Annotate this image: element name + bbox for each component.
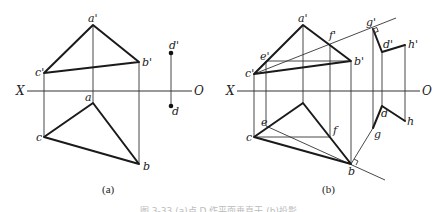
label-f-b: f — [332, 124, 339, 137]
label-b-b: b — [348, 165, 355, 178]
label-c-a: c — [36, 131, 42, 144]
axis-label-o-a: O — [194, 84, 204, 98]
line-b-g — [351, 128, 373, 164]
panel-b: X O a' b' c' e — [225, 12, 432, 196]
projection-diagram: X O a' b' c' d' a b c d (a) X O — [0, 0, 440, 212]
figure-caption: 图 3-33 (a)点 D 作平面垂直于 (b)投影 — [140, 205, 297, 212]
label-c-prime-a: c' — [35, 66, 44, 79]
label-g-prime-b: g' — [366, 16, 376, 29]
label-a-a: a — [85, 91, 92, 104]
label-f-prime-b: f' — [328, 29, 336, 42]
label-g-b: g — [374, 128, 381, 141]
triangle-front-view-a — [44, 25, 139, 73]
label-h-b: h — [407, 115, 414, 128]
label-h-prime-b: h' — [408, 38, 418, 51]
axis-label-o-b: O — [422, 84, 432, 98]
label-d-a: d — [172, 105, 179, 118]
label-b-a: b — [143, 160, 150, 173]
axis-label-x-a: X — [15, 84, 25, 98]
line-e-b-extended — [266, 126, 385, 180]
label-b-prime-a: b' — [142, 56, 152, 69]
label-e-b: e — [261, 116, 268, 129]
label-a-prime-a: a' — [88, 12, 98, 25]
label-b-prime-b: b' — [354, 55, 364, 68]
label-c-prime-b: c' — [245, 67, 254, 80]
label-a-prime-b: a' — [298, 12, 308, 25]
label-d-prime-b: d' — [383, 38, 393, 51]
panel-label-a: (a) — [102, 183, 115, 196]
label-d-prime-a: d' — [169, 39, 179, 52]
label-e-prime-b: e' — [260, 50, 270, 63]
panel-label-b: (b) — [322, 183, 335, 196]
polyline-g-d-h — [373, 106, 405, 128]
panel-a: X O a' b' c' d' a b c d (a) — [15, 12, 204, 196]
axis-label-x-b: X — [225, 84, 235, 98]
label-d-b: d — [381, 107, 388, 120]
label-c-b: c — [246, 131, 252, 144]
triangle-top-view-a — [44, 103, 139, 164]
